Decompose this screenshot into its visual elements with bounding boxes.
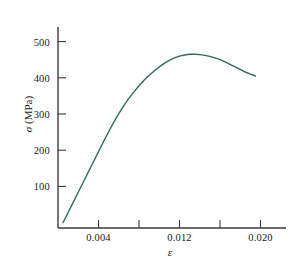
ytick-label-100: 100 xyxy=(22,181,50,192)
y-axis-ticks xyxy=(58,42,66,187)
y-axis-symbol: σ xyxy=(22,127,34,132)
x-axis-ticks xyxy=(99,220,261,228)
xtick-label-0012: 0.012 xyxy=(167,232,192,243)
ytick-label-500: 500 xyxy=(22,36,50,47)
y-axis-units: (MPa) xyxy=(22,96,34,127)
y-axis-title: σ (MPa) xyxy=(22,80,34,148)
stress-strain-figure: 100 200 300 400 500 0.004 0.012 0.020 σ … xyxy=(0,0,304,267)
xtick-label-0020: 0.020 xyxy=(248,232,273,243)
stress-strain-curve xyxy=(63,54,255,222)
x-axis-title: ε xyxy=(160,246,180,258)
xtick-label-0004: 0.004 xyxy=(86,232,111,243)
